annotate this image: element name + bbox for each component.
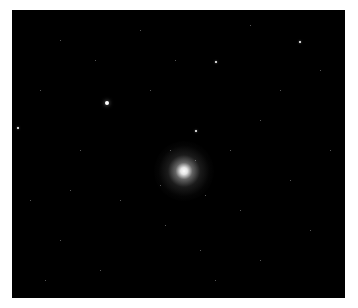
faint-star [290, 180, 291, 181]
faint-star [310, 230, 311, 231]
globular-cluster [154, 141, 214, 201]
faint-star [60, 240, 61, 241]
bright-star [17, 127, 19, 129]
faint-star [100, 270, 101, 271]
faint-star [260, 120, 261, 121]
faint-star [250, 25, 251, 26]
bright-star [215, 61, 217, 63]
faint-star [330, 150, 331, 151]
faint-star [120, 200, 121, 201]
faint-star [240, 210, 241, 211]
bright-star [299, 41, 301, 43]
faint-star [260, 260, 261, 261]
faint-star [95, 60, 96, 61]
faint-star [170, 150, 171, 151]
faint-star [40, 90, 41, 91]
faint-star [140, 30, 141, 31]
faint-star [175, 60, 176, 61]
faint-star [230, 150, 231, 151]
faint-star [280, 90, 281, 91]
faint-star [320, 70, 321, 71]
faint-star [60, 40, 61, 41]
faint-star [70, 190, 71, 191]
bright-star [105, 101, 109, 105]
faint-star [150, 90, 151, 91]
faint-star [195, 160, 196, 161]
faint-star [30, 200, 31, 201]
faint-star [45, 280, 46, 281]
faint-star [205, 195, 206, 196]
bright-star [195, 130, 197, 132]
faint-star [80, 150, 81, 151]
faint-star [200, 250, 201, 251]
faint-star [165, 225, 166, 226]
faint-star [160, 185, 161, 186]
star-field-image [12, 10, 345, 298]
faint-star [215, 280, 216, 281]
